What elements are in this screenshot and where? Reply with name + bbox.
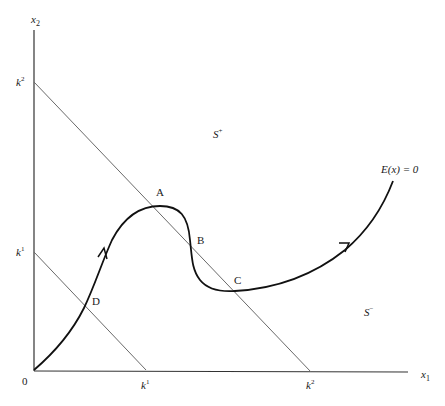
k1-x-intercept-label: k1 [141,378,150,391]
k2-y-intercept-label: k2 [16,75,25,88]
point-b-label: B [197,234,204,246]
x-axis [34,371,408,372]
point-d-label: D [92,295,100,307]
k2-x-intercept-label: k2 [306,378,315,391]
origin-label: 0 [22,375,28,387]
curve-label: E(x) = 0 [380,163,419,176]
point-c-label: C [234,274,241,286]
k1-y-intercept-label: k1 [16,245,25,258]
region-s-minus-label: S− [364,305,374,318]
point-a-label: A [156,186,164,198]
k1-boundary-line [34,252,146,370]
e-curve [34,181,393,370]
phase-diagram: x2 x1 0 k2 k1 k1 k2 S+ S− A B C D E(x) =… [0,0,445,406]
x-axis-label: x1 [420,368,430,383]
y-axis-label: x2 [30,13,40,28]
region-s-plus-label: S+ [213,127,223,140]
k2-boundary-line [34,82,311,372]
